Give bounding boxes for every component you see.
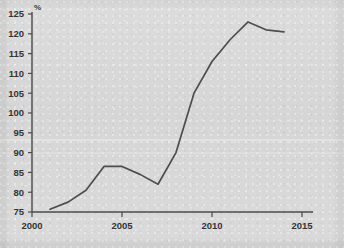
y-axis-tick-label: 95 [13, 127, 24, 138]
x-axis-tick-label: 2005 [111, 220, 133, 231]
y-axis-tick-label: 115 [9, 48, 25, 59]
y-axis-tick-group: 7580859095100105110115120125 [8, 8, 32, 217]
y-axis-unit-label: % [34, 3, 41, 12]
x-axis-tick-label: 2010 [201, 220, 222, 231]
y-axis-tick-label: 120 [8, 28, 24, 39]
chart-container: 7580859095100105110115120125 20002005201… [0, 0, 344, 248]
x-axis-tick-label: 2015 [291, 220, 313, 231]
x-axis-tick-group: 2000200520102015 [21, 212, 313, 231]
y-axis-tick-label: 105 [8, 88, 25, 99]
y-axis-tick-label: 80 [13, 187, 24, 198]
y-axis-tick-label: 75 [13, 206, 24, 217]
y-axis-tick-label: 100 [8, 107, 24, 118]
y-axis-tick-label: 110 [9, 68, 24, 79]
y-axis-tick-label: 125 [8, 8, 25, 19]
y-axis-tick-label: 85 [13, 167, 24, 178]
x-axis-tick-label: 2000 [21, 220, 42, 231]
line-chart: 7580859095100105110115120125 20002005201… [0, 0, 344, 248]
data-series-line [50, 22, 284, 209]
y-axis-tick-label: 90 [13, 147, 24, 158]
